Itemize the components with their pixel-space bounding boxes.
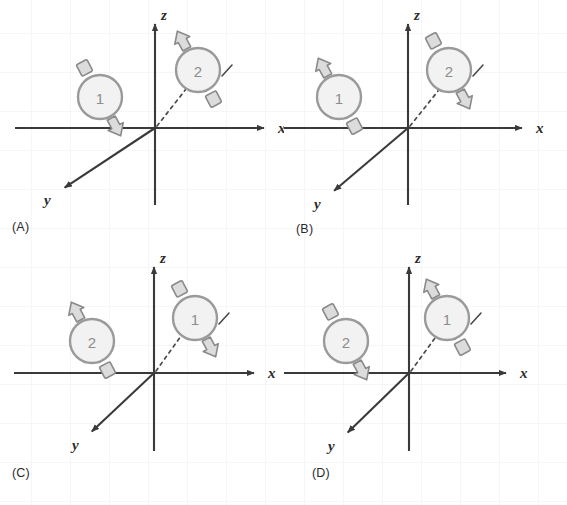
spin-object-number: 1 <box>335 90 343 107</box>
spin-object-2[interactable]: 2 <box>425 32 477 113</box>
dash-continuation-tick <box>473 65 483 76</box>
panel-a-diagram: zxy12 <box>0 0 284 253</box>
panel-label-a: (A) <box>12 220 29 234</box>
y-axis-label: y <box>312 196 321 212</box>
y-axis <box>65 128 155 188</box>
spin-object-number: 2 <box>194 63 202 80</box>
spin-arrow-tail <box>346 118 363 135</box>
spin-arrow-tail <box>205 91 222 108</box>
panel-label-d: (D) <box>312 466 330 480</box>
spin-arrow-tail <box>76 59 93 76</box>
y-axis-label: y <box>70 437 79 453</box>
x-axis-label: x <box>277 120 284 136</box>
panel-d[interactable]: zxy21(D) <box>284 253 567 505</box>
spin-object-number: 2 <box>445 63 453 80</box>
spin-object-2[interactable]: 2 <box>170 27 222 108</box>
spin-object-1[interactable]: 1 <box>311 54 363 135</box>
spin-object-1[interactable]: 1 <box>419 275 471 356</box>
z-axis-label: z <box>160 7 167 23</box>
spin-object-2[interactable]: 2 <box>64 298 116 379</box>
panel-b-diagram: zxy12 <box>284 0 567 253</box>
spin-object-2[interactable]: 2 <box>322 303 374 384</box>
spin-arrow-tail <box>99 362 116 379</box>
spin-arrow-tail <box>171 280 188 297</box>
x-axis-label: x <box>267 365 276 381</box>
panel-c[interactable]: zxy21(C) <box>0 253 284 505</box>
spin-object-number: 1 <box>191 311 199 328</box>
y-axis-label: y <box>42 192 51 208</box>
panel-a[interactable]: zxy12(A) <box>0 0 284 253</box>
y-axis-label: y <box>326 438 335 454</box>
spin-arrow-tail <box>454 339 471 356</box>
y-axis <box>334 128 408 191</box>
spin-object-number: 2 <box>342 334 350 351</box>
spin-object-number: 1 <box>96 90 104 107</box>
z-axis-label: z <box>414 253 421 266</box>
x-axis-label: x <box>519 365 528 381</box>
y-axis <box>92 373 154 432</box>
panel-label-b: (B) <box>296 222 313 236</box>
dash-continuation-tick <box>222 65 232 76</box>
dash-continuation-tick <box>471 313 481 324</box>
dash-continuation-tick <box>219 313 229 324</box>
spin-object-number: 1 <box>443 311 451 328</box>
spin-arrow-tail <box>322 303 339 320</box>
spin-object-number: 2 <box>88 334 96 351</box>
panel-label-c: (C) <box>12 466 30 480</box>
z-axis-label: z <box>413 7 420 23</box>
z-axis-label: z <box>159 253 166 266</box>
panel-c-diagram: zxy21 <box>0 253 284 505</box>
y-axis <box>348 373 409 432</box>
spin-object-1[interactable]: 1 <box>171 280 223 361</box>
spin-arrow-tail <box>425 32 442 49</box>
panel-grid: zxy12(A)zxy12(B)zxy21(C)zxy21(D) <box>0 0 567 505</box>
x-axis-label: x <box>535 120 544 136</box>
panel-b[interactable]: zxy12(B) <box>284 0 567 253</box>
